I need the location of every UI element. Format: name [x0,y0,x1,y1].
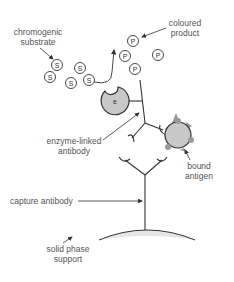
svg-text:S: S [48,74,53,81]
label-coloured-product: coloured product [163,18,207,38]
enzyme: e [101,87,129,115]
label-capture-antibody: capture antibody [10,196,78,206]
label-line: bound [181,161,217,171]
svg-text:S: S [69,80,74,87]
svg-text:S: S [87,77,92,84]
reaction-arrow [94,50,114,83]
label-chromogenic-substrate: chromogenic substrate [8,27,68,47]
svg-text:S: S [55,62,60,69]
svg-text:P: P [123,53,128,60]
svg-text:P: P [156,52,161,59]
bound-antigen [165,113,194,152]
substrate-molecules: S S S S S [45,60,95,89]
label-line: antigen [181,171,217,181]
label-enzyme-linked-antibody: enzyme-linked antibody [42,136,106,156]
label-line: coloured [163,18,207,28]
svg-text:P: P [131,38,136,45]
label-line: solid phase [45,244,91,254]
svg-text:S: S [78,65,83,72]
elisa-diagram: e S S S S S P P P P chromogen [0,0,234,282]
label-line: support [45,254,91,264]
enzyme-linked-antibody [128,80,166,142]
label-line: substrate [8,37,68,47]
label-line: enzyme-linked [42,136,106,146]
svg-text:P: P [133,66,138,73]
label-solid-phase-support: solid phase support [45,244,91,264]
label-line: chromogenic [8,27,68,37]
product-molecules: P P P P [120,36,164,75]
capture-antibody [119,157,167,230]
enzyme-symbol: e [113,98,117,105]
solid-phase-support [99,230,195,240]
label-line: product [163,28,207,38]
label-line: antibody [42,146,106,156]
label-bound-antigen: bound antigen [181,161,217,181]
